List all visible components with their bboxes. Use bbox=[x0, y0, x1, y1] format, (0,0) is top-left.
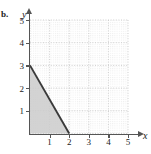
y-tick bbox=[26, 20, 30, 21]
x-axis-label: x bbox=[143, 130, 147, 141]
y-axis bbox=[29, 13, 30, 135]
figure-container: b. y x bbox=[0, 0, 151, 154]
y-tick bbox=[26, 88, 30, 89]
x-tick-label: 4 bbox=[102, 137, 114, 147]
x-tick-label: 1 bbox=[44, 137, 56, 147]
y-tick bbox=[26, 111, 30, 112]
y-tick-label: 5 bbox=[14, 16, 24, 26]
y-tick bbox=[26, 43, 30, 44]
x-tick-label: 2 bbox=[63, 137, 75, 147]
y-tick-label: 2 bbox=[14, 84, 24, 94]
y-tick bbox=[26, 65, 30, 66]
x-tick-label: 3 bbox=[83, 137, 95, 147]
x-axis bbox=[30, 134, 140, 135]
y-tick-label: 4 bbox=[14, 38, 24, 48]
y-tick-label: 3 bbox=[14, 61, 24, 71]
x-tick-label: 5 bbox=[122, 137, 134, 147]
y-tick-label: 1 bbox=[14, 106, 24, 116]
y-axis-arrow-icon bbox=[26, 8, 32, 14]
